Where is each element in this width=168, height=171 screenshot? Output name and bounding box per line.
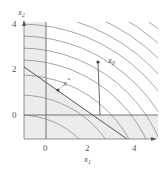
contour-plot: x2 4 2 0 0 2 4 x1 x0 x*: [0, 0, 168, 171]
x-axis-label: x1: [83, 154, 91, 165]
x0-label: x0: [107, 55, 115, 66]
x0-point: [96, 60, 99, 63]
x-tick-4: 4: [132, 143, 137, 153]
y-tick-2: 2: [12, 64, 17, 74]
y-tick-0: 0: [12, 110, 17, 120]
x-star-label: x*: [62, 77, 70, 88]
y-tick-4: 4: [12, 19, 17, 29]
y-axis-label: x2: [17, 7, 25, 18]
x-tick-2: 2: [85, 143, 90, 153]
x-tick-0: 0: [43, 143, 48, 153]
